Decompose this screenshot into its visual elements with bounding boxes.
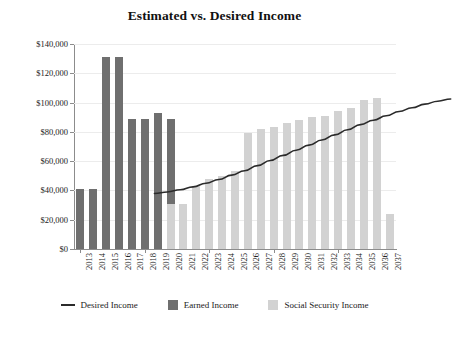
x-axis-tick-mark (145, 250, 146, 253)
bar-slot (115, 44, 123, 249)
bar-slot (102, 44, 110, 249)
x-axis-tick-label: 2030 (303, 253, 313, 270)
legend-swatch-icon (268, 300, 278, 310)
x-axis-tick-label: 2017 (135, 253, 145, 270)
x-axis-tick-label: 2034 (354, 253, 364, 270)
y-axis-tick-label: $80,000 (40, 127, 68, 137)
legend-label: Earned Income (184, 300, 239, 310)
x-axis-tick-label: 2024 (226, 253, 236, 270)
x-axis-tick-label: 2021 (187, 253, 197, 270)
x-axis-tick-label: 2027 (264, 253, 274, 270)
legend-item[interactable]: Social Security Income (268, 300, 368, 310)
bar-earned-income (89, 189, 97, 249)
x-axis-tick-label: 2037 (393, 253, 403, 270)
legend-swatch-icon (168, 300, 178, 310)
legend-label: Desired Income (81, 300, 138, 310)
plot-area (74, 44, 396, 249)
bar-slot (128, 44, 136, 249)
x-axis-tick-label: 2022 (200, 253, 210, 270)
x-axis-tick-mark (209, 250, 210, 253)
x-axis-tick-label: 2032 (329, 253, 339, 270)
x-axis-tick-mark (338, 250, 339, 253)
x-axis-tick-label: 2036 (380, 253, 390, 270)
y-axis-tick-label: $100,000 (36, 98, 68, 108)
x-axis-tick-label: 2013 (84, 253, 94, 270)
y-axis-tick-label: $120,000 (36, 68, 68, 78)
x-axis-tick-label: 2018 (148, 253, 158, 270)
chart-title: Estimated vs. Desired Income (0, 8, 429, 24)
legend-label: Social Security Income (284, 300, 368, 310)
x-axis-tick-mark (80, 250, 81, 253)
x-axis-tick-mark (274, 250, 275, 253)
y-axis-tick-label: $40,000 (40, 185, 68, 195)
x-axis-tick-label: 2033 (342, 253, 352, 270)
y-axis-tick-label: $60,000 (40, 156, 68, 166)
x-axis-tick-label: 2025 (239, 253, 249, 270)
legend-item[interactable]: Earned Income (168, 300, 239, 310)
y-axis-tick-label: $140,000 (36, 39, 68, 49)
y-axis-tick-label: $20,000 (40, 215, 68, 225)
bar-earned-income (115, 57, 123, 249)
x-axis-tick-label: 2019 (161, 253, 171, 270)
bar-earned-income (128, 119, 136, 249)
bar-slot (89, 44, 97, 249)
x-axis-tick-label: 2031 (316, 253, 326, 270)
y-axis-tick-label: $0 (60, 244, 69, 254)
x-axis-tick-label: 2016 (123, 253, 133, 270)
bar-earned-income (76, 189, 84, 249)
x-axis-tick-label: 2015 (110, 253, 120, 270)
x-axis-tick-label: 2029 (290, 253, 300, 270)
x-axis-tick-label: 2023 (213, 253, 223, 270)
legend-line-marker-icon (61, 304, 75, 307)
chart-legend: Desired IncomeEarned IncomeSocial Securi… (0, 300, 429, 310)
x-axis-tick-label: 2028 (277, 253, 287, 270)
x-axis-tick-label: 2026 (251, 253, 261, 270)
bar-slot (76, 44, 84, 249)
bar-earned-income (102, 57, 110, 249)
x-axis-tick-label: 2020 (174, 253, 184, 270)
x-axis-tick-label: 2035 (367, 253, 377, 270)
x-axis-tick-label: 2014 (97, 253, 107, 270)
legend-item[interactable]: Desired Income (61, 300, 138, 310)
